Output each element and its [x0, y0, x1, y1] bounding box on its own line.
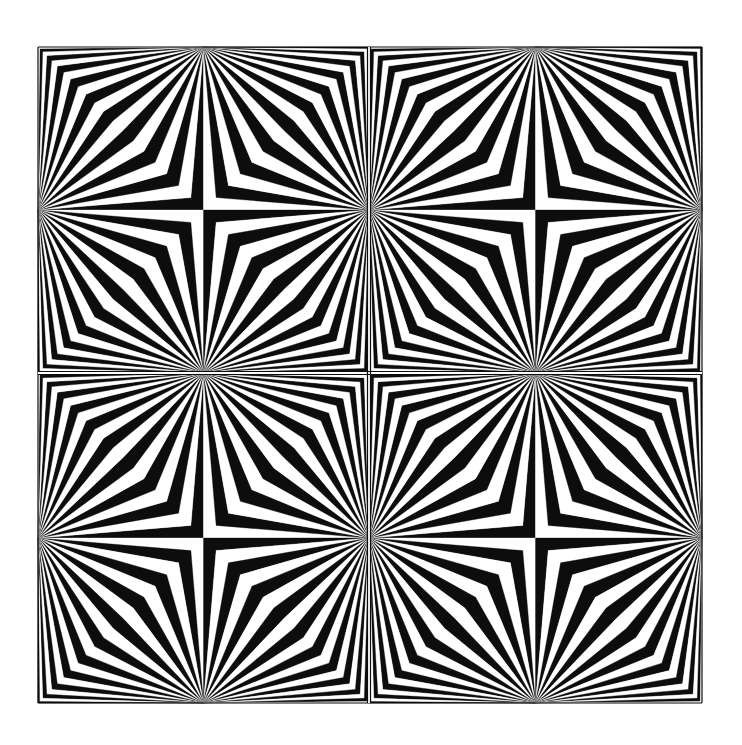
quadrant-top-left — [38, 373, 204, 538]
quadrant-top-right — [536, 47, 703, 210]
quadrant-bottom-left — [369, 538, 536, 703]
quadrant-top-right — [536, 373, 703, 538]
quadrant-bottom-right — [536, 538, 703, 703]
quadrant-bottom-left — [38, 210, 204, 373]
quadrant-bottom-right — [204, 210, 370, 373]
tile-r0-c1 — [369, 47, 702, 373]
quadrant-bottom-left — [369, 210, 536, 373]
quadrant-top-left — [369, 47, 536, 210]
quadrant-top-right — [204, 373, 370, 538]
quadrant-top-right — [204, 47, 370, 210]
quadrant-top-left — [38, 47, 204, 210]
tile-r1-c1 — [369, 373, 702, 703]
quadrant-bottom-left — [38, 538, 204, 703]
tile-r1-c0 — [38, 373, 369, 703]
op-art-canvas — [0, 0, 742, 745]
quadrant-bottom-right — [536, 210, 703, 373]
quadrant-bottom-right — [204, 538, 370, 703]
tile-r0-c0 — [38, 47, 369, 373]
quadrant-top-left — [369, 373, 536, 538]
